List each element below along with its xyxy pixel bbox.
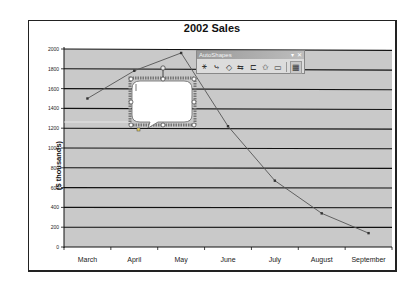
toolbar-title-bar[interactable]: AutoShapes ▾ ✕ [197, 51, 304, 59]
toolbar-title: AutoShapes [199, 52, 232, 58]
toolbar-icons: ⚹⤷◇⇆⊏✩▭▦ [197, 59, 304, 75]
y-tick-label: 0 [56, 244, 59, 250]
y-tick-label: 1000 [48, 145, 59, 151]
x-tick-label: August [311, 256, 333, 264]
x-axis-ticks: MarchAprilMayJuneJulyAugustSeptember [64, 247, 392, 264]
y-tick-label: 1400 [48, 105, 59, 111]
more-autoshapes-icon[interactable]: ▦ [290, 61, 302, 74]
y-tick-label: 800 [51, 165, 60, 171]
x-tick-label: May [175, 256, 189, 264]
stars-and-banners-icon[interactable]: ✩ [260, 62, 270, 73]
y-tick-label: 400 [51, 204, 60, 210]
gridline [64, 148, 392, 149]
x-tick-label: September [351, 256, 386, 264]
toolbar-close-button[interactable]: ✕ [297, 51, 302, 59]
x-tick-label: March [78, 256, 98, 263]
y-tick-label: 200 [51, 224, 60, 230]
flowchart-icon[interactable]: ⊏ [248, 62, 258, 73]
x-tick-label: June [220, 256, 235, 263]
data-point-marker [274, 179, 276, 181]
line-chart: 0200400600800100012001400160018002000 Ma… [0, 0, 416, 284]
lines-icon[interactable]: ⚹ [199, 62, 209, 73]
data-point-marker [133, 70, 135, 72]
x-tick-label: April [127, 256, 141, 264]
rotation-handle [161, 66, 165, 70]
y-tick-label: 600 [51, 185, 60, 191]
data-point-marker [86, 97, 88, 99]
data-point-marker [180, 52, 182, 54]
toolbar-options-button[interactable]: ▾ [291, 51, 294, 59]
y-tick-label: 1600 [48, 86, 59, 92]
toolbar-separator [286, 62, 287, 72]
autoshapes-toolbar[interactable]: AutoShapes ▾ ✕ ⚹⤷◇⇆⊏✩▭▦ [196, 50, 305, 74]
data-point-marker [367, 232, 369, 234]
y-tick-label: 1200 [48, 125, 59, 131]
adjust-handle [137, 128, 140, 131]
data-point-marker [227, 125, 229, 127]
y-axis-ticks: 0200400600800100012001400160018002000 [48, 46, 64, 250]
basic-shapes-icon[interactable]: ◇ [224, 62, 234, 73]
callout-body [132, 81, 192, 128]
connectors-icon[interactable]: ⤷ [211, 62, 221, 73]
y-tick-label: 2000 [48, 46, 59, 52]
y-tick-label: 1800 [48, 66, 59, 72]
block-arrows-icon[interactable]: ⇆ [236, 62, 246, 73]
data-point-marker [321, 212, 323, 214]
callouts-icon[interactable]: ▭ [273, 62, 283, 73]
x-tick-label: July [269, 256, 282, 264]
gridline [64, 168, 392, 169]
